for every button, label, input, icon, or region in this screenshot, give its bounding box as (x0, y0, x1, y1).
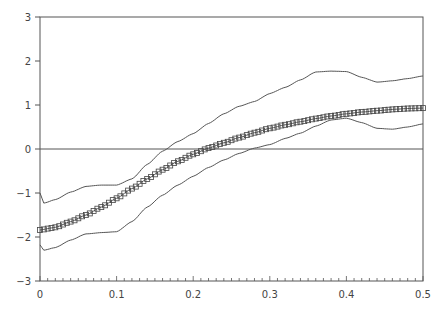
y-tick-label: 0 (25, 144, 31, 155)
y-tick-label: 2 (25, 56, 31, 67)
x-tick-label: 0.5 (415, 289, 431, 300)
y-tick-label: 3 (25, 12, 31, 23)
line-chart: 00.10.20.30.40.5 −3−2−10123 (0, 0, 442, 311)
y-tick-label: −2 (16, 232, 31, 243)
x-tick-label: 0.4 (338, 289, 354, 300)
x-tick-label: 0.1 (109, 289, 125, 300)
y-tick-label: −1 (16, 188, 31, 199)
x-tick-label: 0.3 (262, 289, 278, 300)
x-tick-label: 0 (37, 289, 43, 300)
upper-band-line (40, 71, 423, 203)
y-axis-tick-labels: −3−2−10123 (16, 12, 31, 287)
y-tick-label: −3 (16, 276, 31, 287)
x-tick-label: 0.2 (185, 289, 201, 300)
y-tick-label: 1 (25, 100, 31, 111)
x-axis-tick-labels: 00.10.20.30.40.5 (37, 289, 431, 300)
